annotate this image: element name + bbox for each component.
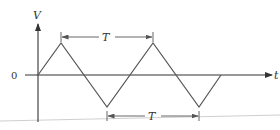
y-axis-label: V [33, 9, 42, 22]
triangle-wave-diagram: V t 0 T T [0, 0, 280, 130]
period-label-bottom: T [148, 110, 157, 123]
period-dimension-top: T [61, 31, 153, 44]
y-axis: V [33, 9, 42, 122]
period-label-top: T [102, 31, 111, 44]
x-axis-label: t [274, 69, 279, 82]
x-axis: t 0 [11, 69, 279, 82]
origin-label: 0 [11, 70, 17, 81]
